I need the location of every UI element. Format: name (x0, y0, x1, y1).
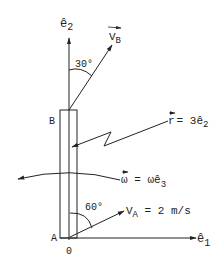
svg-text:r= 3ê2: r= 3ê2 (168, 115, 208, 130)
rigid-rod-kinematics-diagram: ê2 ê1 0 A B VB 30° r= 3ê2 ω = ωê3 60° VA… (0, 0, 222, 264)
velocity-b-label: VB (108, 27, 122, 46)
position-label: r= 3ê2 (168, 113, 208, 130)
point-a-label: A (51, 233, 57, 244)
velocity-a-label: VA = 2 m/s (126, 205, 191, 220)
e2-label: ê2 (60, 17, 73, 33)
svg-text:VB: VB (109, 31, 122, 46)
angle-30-label: 30° (75, 59, 93, 70)
angular-velocity-label: ω = ωê3 (121, 172, 166, 190)
origin-label: 0 (66, 246, 72, 257)
e1-label: ê1 (197, 232, 210, 249)
svg-text:ω = ωê3: ω = ωê3 (121, 174, 166, 190)
velocity-a-vector (70, 211, 124, 237)
angle-60-label: 60° (85, 202, 103, 213)
position-leader-line (72, 121, 168, 147)
point-b-label: B (49, 116, 55, 127)
velocity-b-vector (69, 45, 112, 110)
